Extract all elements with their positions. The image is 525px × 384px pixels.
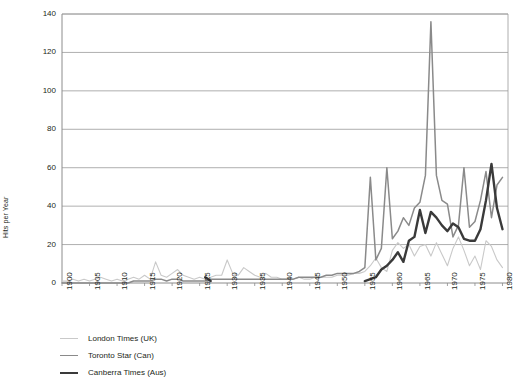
x-tick-label: 1910 — [121, 272, 129, 290]
x-tick-label: 1905 — [94, 272, 102, 290]
x-tick-label: 1965 — [424, 272, 432, 290]
x-tick-label: 1925 — [204, 272, 212, 290]
x-tick-label: 1900 — [66, 272, 74, 290]
legend-item: London Times (UK) — [60, 330, 360, 347]
x-axis-tick-labels: 1900190519101915192019251930193519401945… — [0, 0, 525, 384]
x-tick-label: 1975 — [479, 272, 487, 290]
chart-legend: London Times (UK) Toronto Star (Can) Can… — [60, 330, 360, 381]
x-tick-label: 1955 — [369, 272, 377, 290]
x-tick-label: 1960 — [396, 272, 404, 290]
x-tick-label: 1930 — [231, 272, 239, 290]
legend-label-canberra: Canberra Times (Aus) — [88, 368, 166, 377]
x-tick-label: 1935 — [259, 272, 267, 290]
legend-label-toronto: Toronto Star (Can) — [88, 351, 154, 360]
legend-swatch-canberra — [60, 372, 78, 374]
x-tick-label: 1970 — [451, 272, 459, 290]
legend-label-london: London Times (UK) — [88, 334, 157, 343]
legend-item: Toronto Star (Can) — [60, 347, 360, 364]
legend-swatch-london — [60, 338, 78, 339]
x-tick-label: 1920 — [176, 272, 184, 290]
legend-item: Canberra Times (Aus) — [60, 364, 360, 381]
x-tick-label: 1980 — [506, 272, 514, 290]
x-tick-label: 1950 — [341, 272, 349, 290]
legend-swatch-toronto — [60, 355, 78, 356]
x-tick-label: 1940 — [286, 272, 294, 290]
chart-container: Hits per Year 020406080100120140 1900190… — [0, 0, 525, 384]
x-tick-label: 1915 — [149, 272, 157, 290]
x-tick-label: 1945 — [314, 272, 322, 290]
